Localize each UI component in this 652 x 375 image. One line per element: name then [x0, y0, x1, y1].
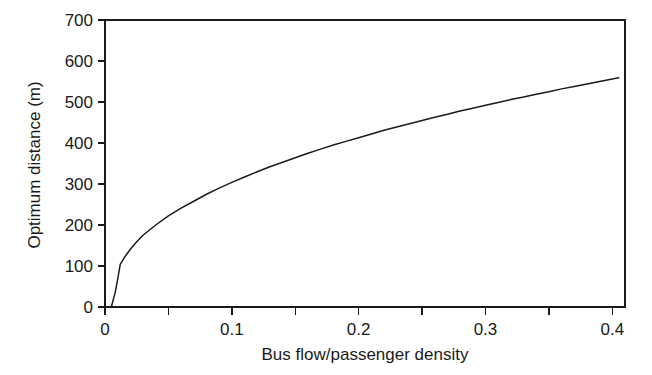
x-tick-label: 0: [100, 320, 109, 339]
axis-frame: [105, 20, 625, 307]
y-tick-label: 600: [65, 52, 93, 71]
data-series-group: [111, 78, 618, 307]
y-axis-ticks: [98, 20, 105, 307]
x-tick-label: 0.3: [474, 320, 498, 339]
y-tick-label: 300: [65, 175, 93, 194]
y-tick-label: 200: [65, 216, 93, 235]
y-axis-title: Optimum distance (m): [25, 81, 44, 248]
chart-figure: 0100200300400500600700 00.10.20.30.4 Opt…: [0, 0, 652, 375]
chart-canvas: 0100200300400500600700 00.10.20.30.4 Opt…: [0, 0, 652, 375]
x-axis-tick-labels: 00.10.20.30.4: [100, 320, 624, 339]
y-tick-label: 500: [65, 93, 93, 112]
x-axis-ticks: [105, 307, 612, 315]
data-line-optimum-distance: [111, 78, 618, 307]
x-tick-label: 0.1: [220, 320, 244, 339]
x-tick-label: 0.4: [600, 320, 624, 339]
y-tick-label: 100: [65, 257, 93, 276]
x-axis-title: Bus flow/passenger density: [262, 345, 469, 364]
y-tick-label: 400: [65, 134, 93, 153]
x-tick-label: 0.2: [347, 320, 371, 339]
y-axis-tick-labels: 0100200300400500600700: [65, 11, 93, 317]
y-tick-label: 0: [84, 298, 93, 317]
y-tick-label: 700: [65, 11, 93, 30]
